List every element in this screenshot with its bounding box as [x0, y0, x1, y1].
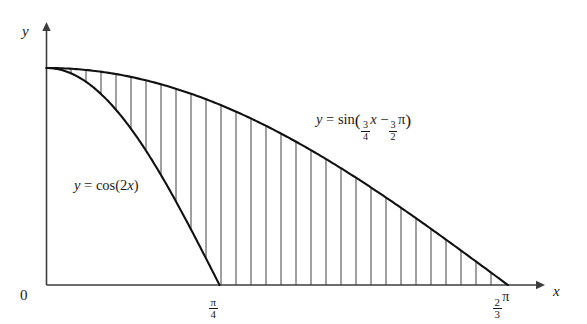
sin-label-equals: = [326, 111, 334, 127]
origin-label: 0 [20, 288, 28, 303]
axes-group [42, 22, 545, 289]
sin-curve-annotation: y = sin(34x −32π) [316, 112, 411, 142]
fraction-two-thirds: 2 3 [493, 297, 502, 321]
fraction-denominator: 2 [389, 132, 397, 143]
y-axis-label: y [22, 24, 29, 39]
sin-label-minus: − [380, 111, 388, 127]
y-axis-arrowhead [42, 22, 50, 31]
fraction-numerator: 2 [493, 297, 502, 309]
fraction-denominator: 4 [209, 309, 218, 320]
cos-curve-annotation: y = cos(2x) [74, 178, 139, 193]
x-tick-label-pi-over-4: π 4 [208, 290, 218, 320]
sin-label-function: sin [338, 111, 355, 127]
sin-label-open-paren: ( [355, 110, 361, 130]
x-axis-arrowhead [536, 281, 545, 289]
fraction-numerator: π [209, 297, 218, 309]
fraction-numerator: 3 [361, 120, 369, 132]
fraction-numerator: 3 [389, 120, 397, 132]
fraction-three-quarters: 34 [361, 120, 369, 142]
x-axis-label: x [553, 284, 560, 299]
fraction-pi-over-4: π 4 [209, 297, 218, 321]
cos-label-rhs: cos(2x) [96, 177, 139, 193]
sin-label-variable: x [370, 111, 376, 127]
sin-label-lhs: y [316, 111, 322, 127]
cos-label-lhs: y [74, 177, 80, 193]
tick-pi-symbol: π [502, 289, 509, 304]
x-tick-label-two-thirds-pi: 2 3 π [492, 290, 509, 320]
fraction-denominator: 3 [493, 309, 502, 320]
fraction-three-halves: 32 [389, 120, 397, 142]
fraction-denominator: 4 [361, 132, 369, 143]
sin-label-close-paren: ) [405, 110, 411, 130]
cos-label-equals: = [84, 177, 92, 193]
figure-container: y x 0 π 4 2 3 π y = cos(2x) y = sin(34x … [0, 0, 587, 324]
plot-svg [0, 0, 587, 324]
